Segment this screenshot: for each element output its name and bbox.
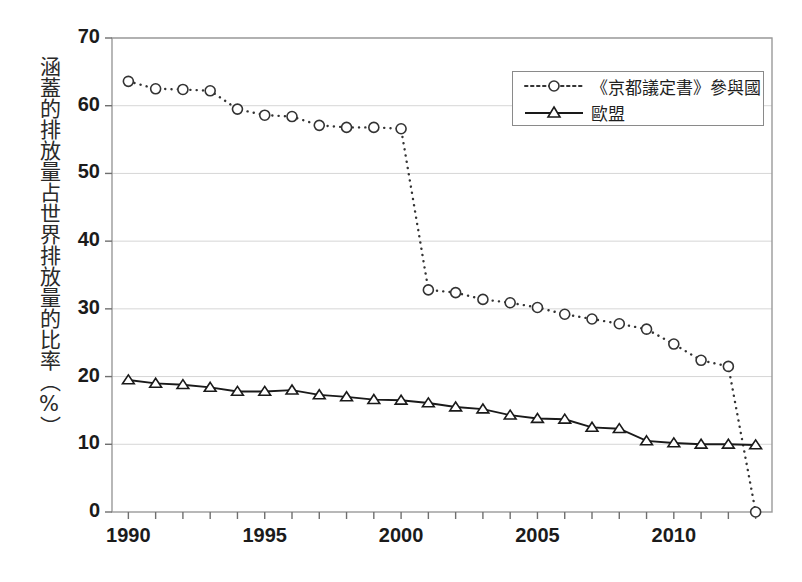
series-line-1 [128, 380, 755, 445]
data-point-circle [587, 314, 597, 324]
chart-legend: 《京都議定書》參與國 歐盟 [512, 71, 764, 126]
data-point-circle [260, 110, 270, 120]
data-point-circle [451, 288, 461, 298]
data-point-circle [369, 122, 379, 132]
y-tick-label: 40 [56, 228, 100, 251]
data-point-circle [178, 84, 188, 94]
y-tick-label: 60 [56, 93, 100, 116]
x-tick-label: 1995 [230, 524, 300, 547]
y-tick-label: 30 [56, 296, 100, 319]
legend-label-kyoto: 《京都議定書》參與國 [591, 74, 761, 99]
x-tick-label: 2010 [639, 524, 709, 547]
data-point-circle [560, 309, 570, 319]
legend-item-eu[interactable]: 歐盟 [523, 99, 625, 125]
y-tick-label: 0 [56, 499, 100, 522]
x-tick-label: 1990 [93, 524, 163, 547]
y-tick-label: 70 [56, 25, 100, 48]
data-point-circle [423, 285, 433, 295]
circle-marker-icon [523, 76, 585, 96]
data-point-circle [505, 298, 515, 308]
data-point-circle [723, 361, 733, 371]
series-line-0 [128, 81, 755, 512]
y-tick-label: 10 [56, 431, 100, 454]
y-tick-label: 50 [56, 160, 100, 183]
data-point-circle [478, 294, 488, 304]
data-point-circle [696, 355, 706, 365]
data-point-circle [232, 104, 242, 114]
data-point-circle [287, 112, 297, 122]
data-point-circle [642, 324, 652, 334]
data-point-circle [669, 339, 679, 349]
data-point-circle [205, 86, 215, 96]
y-tick-label: 20 [56, 364, 100, 387]
data-point-circle [751, 507, 761, 517]
data-point-circle [342, 122, 352, 132]
y-axis-title: 涵蓋的排放量占世界排放量的比率（%） [14, 56, 60, 526]
data-point-circle [314, 120, 324, 130]
triangle-marker-icon [523, 102, 585, 122]
legend-label-eu: 歐盟 [591, 100, 625, 125]
data-point-circle [396, 124, 406, 134]
data-point-circle [532, 303, 542, 313]
x-tick-label: 2005 [502, 524, 572, 547]
data-point-circle [614, 319, 624, 329]
data-point-circle [123, 76, 133, 86]
emissions-coverage-chart: 涵蓋的排放量占世界排放量的比率（%） 《京都議定書》參與國 歐盟 0102030… [0, 0, 802, 582]
legend-item-kyoto[interactable]: 《京都議定書》參與國 [523, 73, 761, 99]
data-point-circle [151, 84, 161, 94]
x-tick-label: 2000 [366, 524, 436, 547]
